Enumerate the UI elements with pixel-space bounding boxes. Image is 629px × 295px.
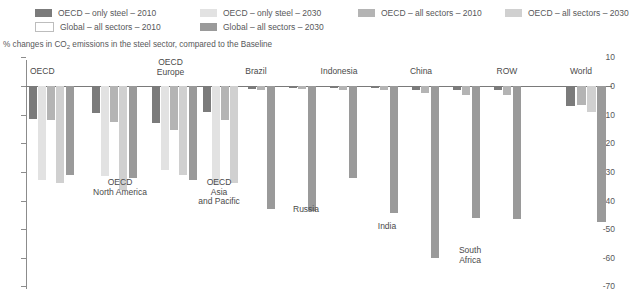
group-label-china: China bbox=[391, 67, 451, 77]
bar-indonesia bbox=[349, 86, 357, 178]
bar-russia bbox=[298, 86, 306, 89]
bar-oecd bbox=[47, 86, 55, 120]
bar-oecd-europe bbox=[161, 86, 169, 170]
group-label-row: ROW bbox=[479, 67, 535, 77]
bar-brazil bbox=[248, 86, 256, 89]
bar-world bbox=[587, 86, 596, 112]
y-axis-tick bbox=[21, 258, 26, 259]
y-axis-tick bbox=[21, 57, 26, 58]
bar-india bbox=[390, 86, 398, 213]
y-axis-tick bbox=[21, 201, 26, 202]
bar-oecd-north-america bbox=[92, 86, 100, 113]
bar-oecd-asia-and-pacific bbox=[212, 86, 220, 185]
bar-indonesia bbox=[330, 86, 338, 88]
bar-oecd-north-america bbox=[101, 86, 109, 176]
bar-row bbox=[513, 86, 521, 219]
y-axis-tick-label: -70 bbox=[591, 282, 615, 290]
y-axis-tick-label: -60 bbox=[591, 254, 615, 262]
y-axis-tick bbox=[21, 86, 26, 87]
bar-oecd-europe bbox=[189, 86, 197, 180]
y-axis-tick-label: 10 bbox=[591, 53, 615, 61]
bar-oecd-europe bbox=[170, 86, 178, 130]
bar-china bbox=[412, 86, 420, 90]
bar-india bbox=[371, 86, 379, 88]
bar-world bbox=[597, 86, 606, 222]
y-axis-tick-label: -50 bbox=[591, 225, 615, 233]
bar-oecd bbox=[38, 86, 46, 180]
group-label-russia: Russia bbox=[276, 205, 336, 215]
bar-oecd-asia-and-pacific bbox=[230, 86, 238, 183]
bar-oecd-asia-and-pacific bbox=[203, 86, 211, 112]
bar-brazil bbox=[257, 86, 265, 90]
bar-oecd-north-america bbox=[110, 86, 118, 122]
bar-china bbox=[431, 86, 439, 258]
bar-row bbox=[494, 86, 502, 90]
y-axis-line bbox=[26, 60, 27, 289]
bar-oecd bbox=[66, 86, 74, 175]
bar-russia bbox=[308, 86, 316, 211]
y-axis-tick bbox=[21, 172, 26, 173]
y-axis-tick bbox=[21, 143, 26, 144]
bar-oecd-europe bbox=[152, 86, 160, 123]
y-axis-tick bbox=[21, 115, 26, 116]
group-label-oecd-asia-and-pacific: OECD Asia and Pacific bbox=[188, 178, 250, 207]
bar-oecd bbox=[56, 86, 64, 183]
bar-world bbox=[577, 86, 586, 105]
group-label-oecd: OECD bbox=[30, 67, 80, 77]
y-axis-tick bbox=[21, 229, 26, 230]
bar-oecd-asia-and-pacific bbox=[221, 86, 229, 120]
bar-south-africa bbox=[472, 86, 480, 218]
group-label-indonesia: Indonesia bbox=[306, 67, 372, 77]
group-label-india: India bbox=[362, 222, 412, 232]
group-label-brazil: Brazil bbox=[226, 67, 286, 77]
bar-south-africa bbox=[453, 86, 461, 90]
bar-row bbox=[503, 86, 511, 95]
y-axis-tick bbox=[21, 286, 26, 287]
bar-south-africa bbox=[462, 86, 470, 95]
group-label-oecd-north-america: OECD North America bbox=[80, 178, 160, 197]
bar-indonesia bbox=[339, 86, 347, 90]
group-label-oecd-europe: OECD Europe bbox=[138, 58, 203, 77]
bar-russia bbox=[289, 86, 297, 88]
bar-china bbox=[421, 86, 429, 93]
group-label-world: World bbox=[551, 67, 611, 77]
bar-world bbox=[566, 86, 575, 106]
bar-oecd bbox=[29, 86, 37, 119]
bar-brazil bbox=[267, 86, 275, 209]
bar-oecd-north-america bbox=[119, 86, 127, 190]
bar-oecd-europe bbox=[179, 86, 187, 175]
bar-oecd-north-america bbox=[129, 86, 137, 178]
bar-india bbox=[380, 86, 388, 90]
group-label-south-africa: South Africa bbox=[442, 246, 498, 265]
